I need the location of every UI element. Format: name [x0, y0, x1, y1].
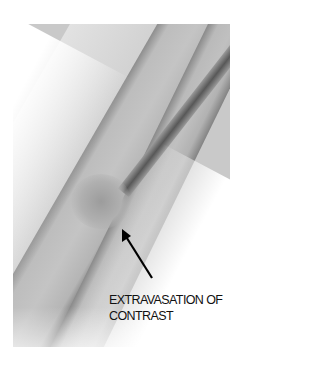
annotation-label: EXTRAVASATION OF CONTRAST	[109, 292, 222, 324]
annotation-line-2: CONTRAST	[109, 308, 222, 324]
annotation-line-1: EXTRAVASATION OF	[109, 292, 222, 308]
